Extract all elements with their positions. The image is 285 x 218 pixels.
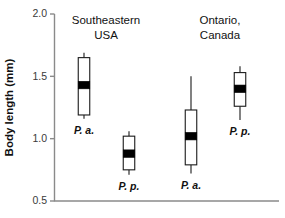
- group-label-2-line-1: Ontario,: [200, 14, 241, 26]
- box-plot-ontario-pa: P. a.: [181, 76, 201, 190]
- group-label-1-line-2: USA: [94, 29, 118, 41]
- y-axis-label: Body length (mm): [3, 58, 15, 156]
- box-plot-chart: 2.01.51.00.5 Body length (mm) Southeaste…: [0, 0, 285, 218]
- series-label-se-usa-pp: P. p.: [119, 180, 140, 192]
- box-plot-se-usa-pp: P. p.: [119, 131, 140, 192]
- y-tick-label: 0.5: [32, 194, 47, 206]
- median-marker: [234, 85, 246, 93]
- group-label-1-line-1: Southeastern: [72, 14, 140, 26]
- y-tick-label: 1.5: [32, 70, 47, 82]
- median-marker: [123, 150, 135, 158]
- median-marker: [185, 132, 197, 140]
- median-marker: [78, 81, 90, 89]
- y-tick-label: 1.0: [32, 132, 47, 144]
- y-axis-title: Body length (mm): [3, 58, 15, 156]
- y-axis-ticks: 2.01.51.00.5: [32, 7, 54, 206]
- series-label-ontario-pp: P. p.: [230, 125, 251, 137]
- box-plot-se-usa-pa: P. a.: [74, 53, 94, 136]
- group-labels: SoutheasternUSAOntario,Canada: [72, 14, 241, 41]
- y-tick-label: 2.0: [32, 7, 47, 19]
- box-plot-series: P. a.P. p.P. a.P. p.: [74, 53, 251, 192]
- series-label-ontario-pa: P. a.: [181, 179, 201, 191]
- group-label-2-line-2: Canada: [200, 29, 241, 41]
- series-label-se-usa-pa: P. a.: [74, 124, 94, 136]
- box-plot-ontario-pp: P. p.: [230, 66, 251, 137]
- chart-canvas: 2.01.51.00.5 Body length (mm) Southeaste…: [0, 0, 285, 218]
